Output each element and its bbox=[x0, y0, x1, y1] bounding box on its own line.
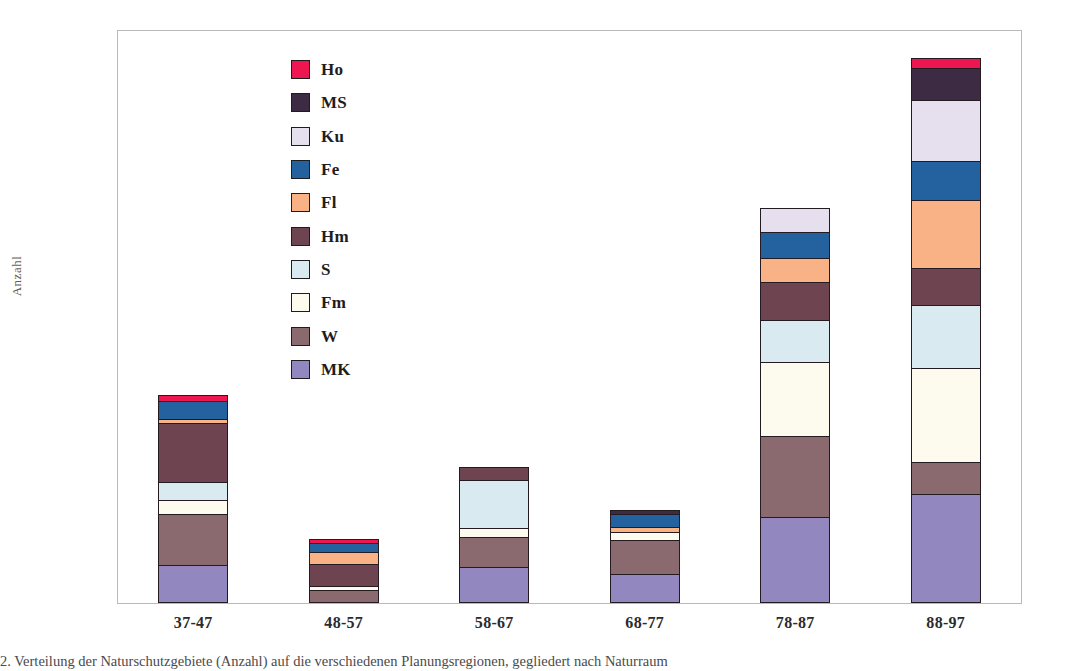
bar-segment-S[interactable] bbox=[911, 305, 981, 369]
bar-series-container bbox=[118, 31, 1021, 603]
bar-group-58-67 bbox=[419, 31, 570, 603]
legend-label: W bbox=[321, 328, 338, 345]
legend-item-MK[interactable]: MK bbox=[291, 353, 351, 386]
bar-segment-S[interactable] bbox=[459, 480, 529, 529]
bar-segment-Fl[interactable] bbox=[911, 200, 981, 269]
bar-segment-Fm[interactable] bbox=[158, 500, 228, 515]
legend-label: MS bbox=[321, 94, 347, 111]
bar-segment-Hm[interactable] bbox=[459, 467, 529, 480]
x-tick-88-97: 88-97 bbox=[871, 614, 1022, 632]
bar-segment-Fe[interactable] bbox=[610, 514, 680, 529]
legend-swatch-icon-Fm bbox=[291, 293, 310, 312]
bar-segment-Fe[interactable] bbox=[760, 232, 830, 259]
x-tick-78-87: 78-87 bbox=[720, 614, 871, 632]
legend-label: Ku bbox=[321, 128, 344, 145]
legend-swatch-icon-Ho bbox=[291, 60, 310, 79]
legend-label: Fl bbox=[321, 194, 337, 211]
legend-item-S[interactable]: S bbox=[291, 253, 351, 286]
bar-segment-S[interactable] bbox=[158, 482, 228, 501]
bar-segment-Fe[interactable] bbox=[911, 161, 981, 201]
legend-label: Ho bbox=[321, 61, 343, 78]
legend-swatch-icon-W bbox=[291, 327, 310, 346]
legend-item-Fm[interactable]: Fm bbox=[291, 286, 351, 319]
x-tick-58-67: 58-67 bbox=[419, 614, 570, 632]
legend-label: Fe bbox=[321, 161, 340, 178]
bar-segment-Fm[interactable] bbox=[911, 368, 981, 463]
bar-segment-Fl[interactable] bbox=[309, 552, 379, 565]
x-tick-48-57: 48-57 bbox=[269, 614, 420, 632]
bar-segment-MK[interactable] bbox=[158, 565, 228, 603]
bar-group-68-77 bbox=[570, 31, 721, 603]
legend-label: S bbox=[321, 261, 331, 278]
stacked-bar[interactable] bbox=[610, 510, 680, 603]
chart-legend: HoMSKuFeFlHmSFmWMK bbox=[291, 53, 351, 386]
bar-segment-Hm[interactable] bbox=[158, 423, 228, 483]
bar-group-88-97 bbox=[871, 31, 1022, 603]
bar-segment-MK[interactable] bbox=[911, 494, 981, 603]
y-axis-title: Anzahl bbox=[9, 221, 25, 331]
legend-swatch-icon-Fe bbox=[291, 160, 310, 179]
legend-swatch-icon-S bbox=[291, 260, 310, 279]
legend-label: MK bbox=[321, 361, 351, 378]
legend-label: Hm bbox=[321, 228, 349, 245]
legend-item-Hm[interactable]: Hm bbox=[291, 219, 351, 252]
bar-segment-MS[interactable] bbox=[911, 68, 981, 101]
bar-segment-W[interactable] bbox=[158, 514, 228, 566]
bar-segment-MK[interactable] bbox=[459, 567, 529, 603]
bar-segment-W[interactable] bbox=[911, 462, 981, 495]
bar-segment-S[interactable] bbox=[760, 320, 830, 363]
legend-swatch-icon-Ku bbox=[291, 127, 310, 146]
legend-item-MS[interactable]: MS bbox=[291, 86, 351, 119]
bar-segment-Hm[interactable] bbox=[911, 268, 981, 307]
legend-item-Ku[interactable]: Ku bbox=[291, 120, 351, 153]
bar-segment-W[interactable] bbox=[459, 537, 529, 569]
stacked-bar[interactable] bbox=[309, 539, 379, 603]
bar-group-78-87 bbox=[720, 31, 871, 603]
legend-swatch-icon-Hm bbox=[291, 227, 310, 246]
bar-segment-Hm[interactable] bbox=[760, 282, 830, 321]
bar-segment-MK[interactable] bbox=[760, 517, 830, 603]
x-tick-68-77: 68-77 bbox=[570, 614, 721, 632]
bar-segment-Fe[interactable] bbox=[158, 401, 228, 420]
legend-swatch-icon-Fl bbox=[291, 193, 310, 212]
bar-segment-Fl[interactable] bbox=[760, 258, 830, 283]
stacked-bar[interactable] bbox=[158, 395, 228, 603]
legend-swatch-icon-MS bbox=[291, 93, 310, 112]
legend-item-Fe[interactable]: Fe bbox=[291, 153, 351, 186]
stacked-bar[interactable] bbox=[911, 58, 981, 603]
legend-item-W[interactable]: W bbox=[291, 319, 351, 352]
stacked-bar[interactable] bbox=[760, 208, 830, 603]
chart-figure: 0102030405060708090 Anzahl 37-4748-5758-… bbox=[0, 0, 1071, 671]
bar-segment-W[interactable] bbox=[760, 436, 830, 518]
bar-segment-W[interactable] bbox=[610, 540, 680, 574]
legend-item-Fl[interactable]: Fl bbox=[291, 186, 351, 219]
x-tick-37-47: 37-47 bbox=[118, 614, 269, 632]
bar-group-37-47 bbox=[118, 31, 269, 603]
bar-segment-MK[interactable] bbox=[610, 574, 680, 603]
stacked-bar[interactable] bbox=[459, 467, 529, 603]
legend-swatch-icon-MK bbox=[291, 360, 310, 379]
bar-segment-Hm[interactable] bbox=[309, 564, 379, 587]
bar-segment-W[interactable] bbox=[309, 590, 379, 603]
legend-item-Ho[interactable]: Ho bbox=[291, 53, 351, 86]
bar-segment-Fm[interactable] bbox=[760, 362, 830, 437]
figure-caption: 2. Verteilung der Naturschutzgebiete (An… bbox=[0, 652, 1071, 670]
bar-segment-Ku[interactable] bbox=[911, 100, 981, 162]
legend-label: Fm bbox=[321, 294, 346, 311]
bar-segment-Ku[interactable] bbox=[760, 208, 830, 233]
